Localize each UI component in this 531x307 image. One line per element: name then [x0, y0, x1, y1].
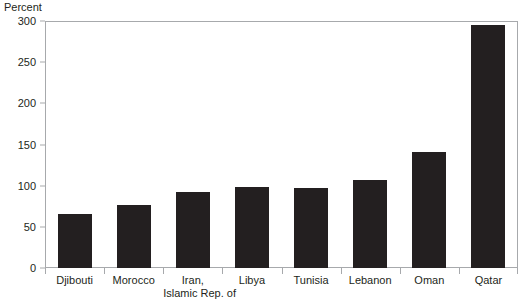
bar-slot — [222, 21, 281, 268]
x-axis-category-label: Morocco — [104, 274, 163, 287]
y-axis-tick-label: 150 — [18, 139, 36, 150]
x-axis-category-label: Tunisia — [282, 274, 341, 287]
y-axis-tick-label: 50 — [24, 221, 36, 232]
bar[interactable] — [294, 188, 328, 268]
x-axis-category-label-line1: Iran, — [182, 274, 204, 286]
bar-slot — [459, 21, 518, 268]
x-axis-category-label-line1: Djibouti — [56, 274, 93, 286]
y-axis-tick-label: 200 — [18, 98, 36, 109]
bar-slot — [163, 21, 222, 268]
bar[interactable] — [58, 214, 92, 268]
x-axis-category-label: Qatar — [459, 274, 518, 287]
x-axis-category-label-line2: Islamic Rep. of — [163, 287, 222, 300]
bar[interactable] — [412, 152, 446, 268]
x-axis-labels: DjiboutiMoroccoIran,Islamic Rep. ofLibya… — [45, 274, 518, 307]
x-axis-category-label-line1: Lebanon — [349, 274, 392, 286]
x-axis-category-label: Iran,Islamic Rep. of — [163, 274, 222, 300]
bar-slot — [282, 21, 341, 268]
y-axis-tick-label: 300 — [18, 16, 36, 27]
x-axis-category-label: Libya — [222, 274, 281, 287]
bar[interactable] — [235, 187, 269, 268]
bars-layer — [45, 21, 518, 268]
y-axis-tick-label: 100 — [18, 180, 36, 191]
y-axis-title: Percent — [4, 1, 42, 14]
bar[interactable] — [176, 192, 210, 268]
x-axis-category-label: Djibouti — [45, 274, 104, 287]
x-axis-category-label: Oman — [400, 274, 459, 287]
y-axis-tick-label: 0 — [30, 263, 36, 274]
bar[interactable] — [117, 205, 151, 268]
y-axis-tick-label: 250 — [18, 57, 36, 68]
x-axis-category-label: Lebanon — [341, 274, 400, 287]
bar[interactable] — [353, 180, 387, 268]
bar-slot — [104, 21, 163, 268]
x-axis-category-label-line1: Qatar — [475, 274, 503, 286]
x-axis-category-label-line1: Libya — [239, 274, 265, 286]
x-axis-category-label-line1: Oman — [414, 274, 444, 286]
x-axis-category-label-line1: Morocco — [113, 274, 155, 286]
bar-slot — [341, 21, 400, 268]
bar[interactable] — [471, 25, 505, 268]
bar-chart: Percent 300250200150100500 DjiboutiMoroc… — [0, 0, 531, 307]
y-axis: 300250200150100500 — [0, 21, 45, 268]
bar-slot — [45, 21, 104, 268]
bar-slot — [400, 21, 459, 268]
x-axis-category-label-line1: Tunisia — [294, 274, 329, 286]
